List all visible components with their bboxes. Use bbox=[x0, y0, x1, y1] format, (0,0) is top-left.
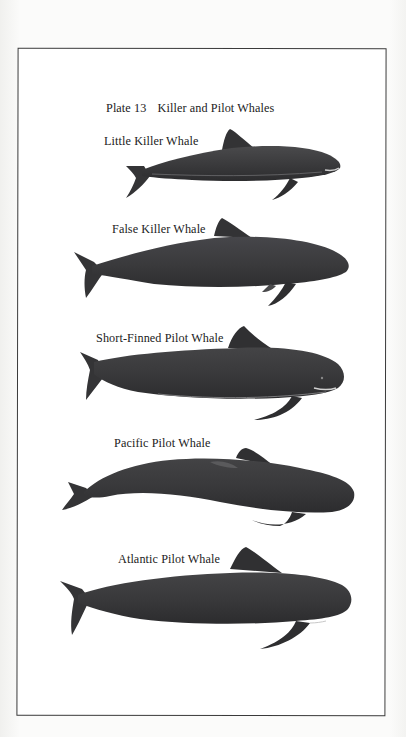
atlantic-pilot-whale-illustration bbox=[60, 545, 356, 651]
plate-title: Plate 13 Killer and Pilot Whales bbox=[106, 101, 274, 116]
false-killer-whale-illustration bbox=[74, 216, 352, 312]
pacific-pilot-whale-illustration bbox=[60, 446, 356, 536]
little-killer-whale-illustration bbox=[122, 126, 344, 202]
plate-number: Plate 13 bbox=[106, 101, 146, 115]
plate-heading: Killer and Pilot Whales bbox=[158, 101, 275, 115]
short-finned-pilot-whale-illustration bbox=[78, 324, 348, 424]
